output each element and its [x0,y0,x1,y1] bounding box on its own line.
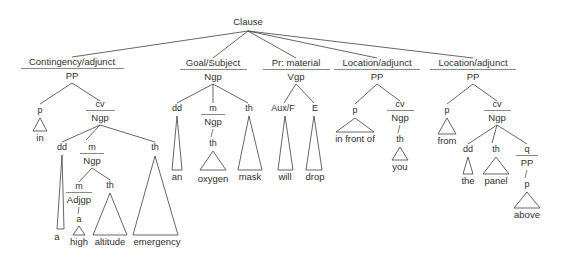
triangle-a-det [57,155,64,229]
leaf-will: will [277,171,291,182]
node-dd-2: dd [172,103,182,113]
node-adjgp: Adjgp [67,194,91,205]
node-th-3: th [209,138,217,148]
root-edges [72,31,473,58]
leaf-mask: mask [239,171,262,182]
leaf-emergency: emergency [134,236,181,247]
node-p-2: p [352,105,357,115]
category-label-contingency: PP [66,70,79,81]
node-dd-1: dd [57,142,67,152]
node-ngp-2: Ngp [83,155,100,166]
node-th-1: th [106,180,114,190]
node-dd-3: dd [463,144,473,154]
node-q: q [524,144,529,154]
node-m-2: m [75,181,83,191]
node-cv-2: cv [396,99,406,109]
function-label-contingency: Contingency/adjunct [29,56,115,67]
syntax-tree-diagram: Clause Contingency/adjunct PP p in cv [0,0,561,260]
node-e: E [312,103,318,113]
node-cv-1: cv [96,99,106,109]
node-m-3: m [209,103,217,113]
triangle-will [278,116,293,170]
function-label-goal-subject: Goal/Subject [186,57,241,68]
node-th-5: th [396,134,404,144]
triangle-high [73,226,85,235]
leaf-panel: panel [484,175,507,186]
triangle-from [438,118,456,134]
triangle-the [463,157,473,174]
node-p-3: p [444,105,449,115]
node-m-1: m [88,142,96,152]
triangle-mask [238,116,262,170]
node-a-adj: a [76,214,81,224]
function-label-pr-material: Pr: material [272,57,321,68]
constituent-location-adjunct-1: Location/adjunct PP p in front of cv Ngp… [334,57,420,172]
leaf-an: an [172,171,183,182]
leaf-from: from [438,135,457,146]
leaf-a: a [54,231,60,242]
leaf-above: above [514,209,540,220]
leaf-altitude: altitude [95,236,126,247]
triangle-emergency [133,156,178,235]
leaf-drop: drop [305,171,324,182]
triangle-you [392,147,408,160]
node-th-2: th [151,142,159,152]
category-label-location-1: PP [371,71,384,82]
leaf-oxygen: oxygen [198,173,229,184]
node-th-6: th [492,144,500,154]
function-label-location-2: Location/adjunct [438,57,508,68]
triangle-in-front-of [336,118,374,132]
leaf-high: high [70,236,88,247]
function-label-location-1: Location/adjunct [342,57,412,68]
triangle-in [33,118,47,131]
root-node-label: Clause [233,16,263,27]
node-pp-embedded: PP [521,157,534,168]
category-label-pr-material: Vgp [288,71,305,82]
node-ngp-3: Ngp [204,116,221,127]
category-label-goal-subject: Ngp [204,71,221,82]
category-label-location-2: PP [467,71,480,82]
leaf-the: the [461,175,474,186]
triangle-drop [306,116,322,170]
triangle-above [514,192,540,208]
leaf-in-front-of: in front of [335,133,375,144]
triangle-an [172,116,182,170]
constituent-goal-subject: Goal/Subject Ngp dd an m Ngp th oxygen t… [172,57,262,184]
constituent-contingency-adjunct: Contingency/adjunct PP p in cv Ngp dd a … [21,56,181,247]
node-aux-f: Aux/F [271,103,295,113]
node-p-in: p [37,105,42,115]
node-ngp-4: Ngp [391,112,408,123]
triangle-panel [483,157,509,174]
triangle-oxygen [200,151,226,170]
constituent-location-adjunct-2: Location/adjunct PP p from cv Ngp dd the [430,57,540,220]
node-ngp-5: Ngp [488,112,505,123]
constituent-pr-material: Pr: material Vgp Aux/F will E drop [263,57,330,182]
leaf-in: in [36,132,43,143]
node-cv-3: cv [493,99,503,109]
triangle-altitude [93,193,127,235]
leaf-you: you [392,161,407,172]
tree-canvas: Clause Contingency/adjunct PP p in cv [0,0,561,260]
node-th-4: th [245,103,253,113]
node-p-4: p [524,179,529,189]
node-ngp-1: Ngp [91,112,108,123]
